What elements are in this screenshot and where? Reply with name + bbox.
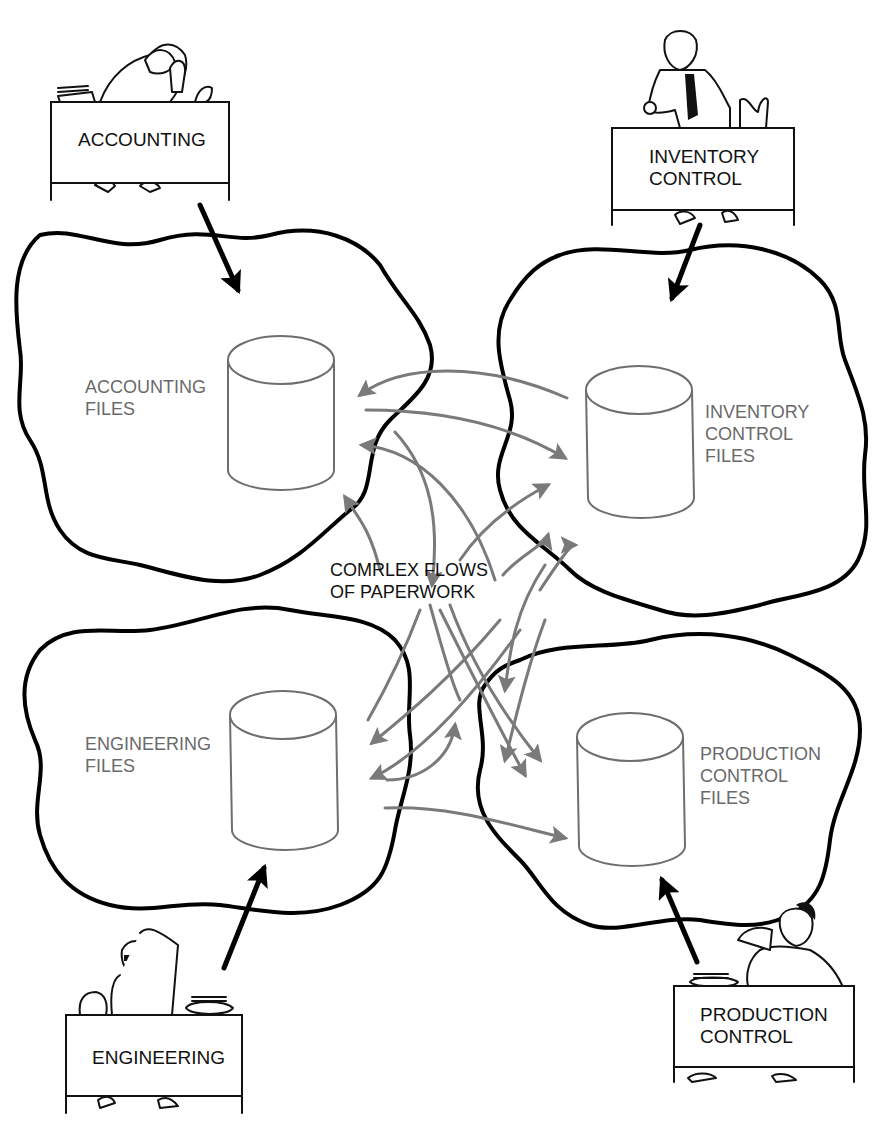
engineering-files-cylinder-icon: [230, 691, 338, 850]
accounting-desk-label: ACCOUNTING: [78, 129, 206, 150]
engineering-to-files-arrow: [224, 868, 264, 968]
production-files-label: PRODUCTION CONTROL FILES: [700, 744, 826, 808]
engineering-desk-label: ENGINEERING: [92, 1047, 225, 1068]
accounting-files-region: [16, 231, 432, 582]
accounting-files-label: ACCOUNTING FILES: [85, 377, 211, 419]
engineering-files-region: [24, 608, 411, 913]
engineering-files-label: ENGINEERING FILES: [85, 734, 216, 776]
accounting-to-files-arrow: [200, 205, 238, 290]
accounting-files-cylinder-icon: [228, 336, 334, 490]
paperwork-flow-arrows: [345, 371, 575, 838]
inventory-files-cylinder-icon: [586, 366, 694, 518]
paperwork-flow-diagram: ACCOUNTING FILES INVENTORY CONTROL FILES…: [0, 0, 894, 1139]
complex-flows-label: COMRLEX FLOWS OF PAPERWORK: [330, 560, 493, 602]
inventory-to-files-arrow: [672, 225, 700, 298]
production-files-cylinder-icon: [577, 713, 685, 866]
inventory-files-label: INVENTORY CONTROL FILES: [705, 402, 814, 466]
